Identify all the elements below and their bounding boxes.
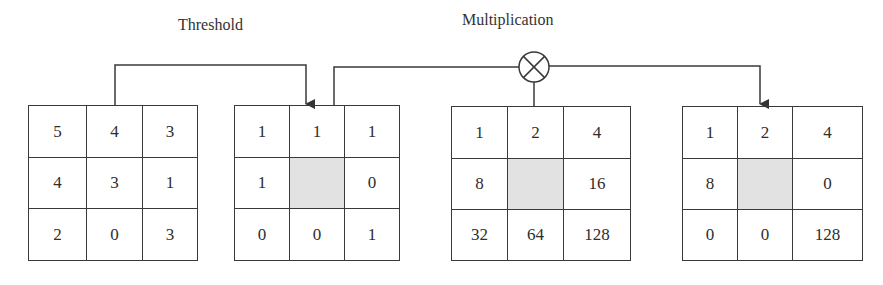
grid-cell: 0 xyxy=(683,210,738,260)
threshold-result-grid: 1 1 1 1 0 0 0 1 xyxy=(234,105,400,261)
grid-cell: 1 xyxy=(345,106,399,158)
grid-cell: 4 xyxy=(87,106,143,158)
grid-cell: 4 xyxy=(793,107,862,159)
threshold-arrow xyxy=(115,65,306,105)
grid-cell: 3 xyxy=(143,209,197,260)
grid-cell: 16 xyxy=(564,159,630,210)
grid-cell: 0 xyxy=(738,210,793,260)
grid-cell: 1 xyxy=(143,158,197,209)
center-cell-shaded xyxy=(290,158,345,209)
grid-cell: 64 xyxy=(508,210,564,260)
grid-cell: 0 xyxy=(87,209,143,260)
grid-cell: 128 xyxy=(793,210,862,260)
grid-cell: 1 xyxy=(290,106,345,158)
grid-cell: 4 xyxy=(564,107,630,159)
grid-cell: 4 xyxy=(29,158,87,209)
center-cell-shaded xyxy=(508,159,564,210)
grid-cell: 1 xyxy=(235,106,290,158)
grid-cell: 0 xyxy=(793,159,862,210)
grid-cell: 1 xyxy=(345,209,399,260)
grid-cell: 0 xyxy=(290,209,345,260)
input-neighborhood-grid: 5 4 3 4 3 1 2 0 3 xyxy=(28,105,198,261)
grid-cell: 0 xyxy=(345,158,399,209)
multiplied-result-grid: 1 2 4 8 0 0 0 128 xyxy=(682,106,863,261)
grid-cell: 2 xyxy=(29,209,87,260)
binary-weights-grid: 1 2 4 8 16 32 64 128 xyxy=(451,106,631,261)
multiply-icon xyxy=(519,52,549,82)
grid-cell: 2 xyxy=(738,107,793,159)
multiply-to-result-arrow xyxy=(549,66,760,104)
grid-cell: 8 xyxy=(683,159,738,210)
grid-cell: 3 xyxy=(143,106,197,158)
grid-cell: 3 xyxy=(87,158,143,209)
center-cell-shaded xyxy=(738,159,793,210)
grid-cell: 5 xyxy=(29,106,87,158)
grid-cell: 8 xyxy=(452,159,508,210)
grid-cell: 32 xyxy=(452,210,508,260)
grid-cell: 1 xyxy=(235,158,290,209)
grid-cell: 1 xyxy=(683,107,738,159)
grid-cell: 1 xyxy=(452,107,508,159)
grid-cell: 2 xyxy=(508,107,564,159)
threshold-to-multiply-line xyxy=(334,67,519,105)
grid-cell: 128 xyxy=(564,210,630,260)
grid-cell: 0 xyxy=(235,209,290,260)
